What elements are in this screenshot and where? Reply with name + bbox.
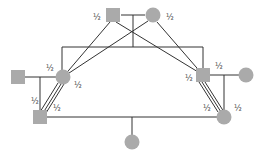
grandfather-square <box>106 8 120 22</box>
left-son-square <box>33 110 47 124</box>
grandmother-circle <box>146 8 161 23</box>
kinship-label: ½ <box>74 81 82 90</box>
bottom-couple-edges <box>47 117 217 135</box>
kinship-label: ½ <box>203 104 211 113</box>
pedigree-diagram: ½ ½ ½ ½ ½ ½ ½ ½ ½ ½ <box>0 0 266 155</box>
right-son-square <box>196 68 210 82</box>
inbred-child-circle <box>125 135 140 150</box>
kinship-label: ½ <box>215 62 223 71</box>
kinship-label: ½ <box>234 104 242 113</box>
right-daughter-circle <box>217 110 232 125</box>
kinship-label: ½ <box>46 64 54 73</box>
right-spouse-circle <box>239 68 254 83</box>
kinship-label: ½ <box>31 97 39 106</box>
kinship-label: ½ <box>93 13 101 22</box>
left-daughter-circle <box>56 70 71 85</box>
left-spouse-square <box>11 70 25 84</box>
kinship-label: ½ <box>53 104 61 113</box>
kinship-label: ½ <box>166 13 174 22</box>
kinship-label: ½ <box>185 74 193 83</box>
